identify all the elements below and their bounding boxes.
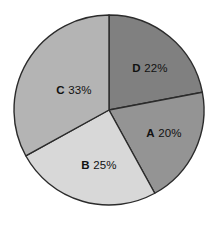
pie-chart-canvas (0, 0, 219, 225)
pie-chart: D 22%A 20%B 25%C 33% (0, 0, 219, 225)
pie-slice-group (14, 15, 204, 205)
